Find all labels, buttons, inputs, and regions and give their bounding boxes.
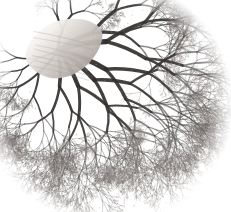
specimen-figure: Grayscale photograph of a branching vasc… (0, 0, 231, 212)
vascular-cast-image (0, 0, 231, 212)
